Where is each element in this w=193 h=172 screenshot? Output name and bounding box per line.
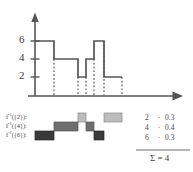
dashed-drop-lines bbox=[54, 41, 122, 95]
y-axis-label-6: 6 bbox=[19, 34, 25, 45]
legend-value-0: 2 bbox=[145, 113, 153, 122]
legend-multiply-icon: · bbox=[153, 113, 165, 122]
legend-multiply-icon: · bbox=[153, 133, 165, 142]
preimage-row-2-bars bbox=[78, 113, 122, 122]
y-axis-label-2: 2 bbox=[19, 70, 25, 81]
legend-value-2: 6 bbox=[145, 133, 153, 142]
preimage-label-4: f-1({4}): bbox=[6, 122, 27, 130]
y-axis-label-4: 4 bbox=[19, 52, 25, 63]
preimage-label-2-tail: ({2}): bbox=[12, 113, 27, 120]
preimage-bar-6-a bbox=[35, 131, 54, 140]
legend-value-1: 4 bbox=[145, 123, 153, 132]
preimage-row-4-bars bbox=[54, 122, 94, 131]
legend-measure-0: 0.3 bbox=[165, 113, 174, 122]
simple-function-figure bbox=[0, 0, 193, 172]
axes-group bbox=[28, 13, 183, 101]
preimage-bar-4-a bbox=[54, 122, 78, 131]
preimage-bar-6-b bbox=[94, 131, 104, 140]
preimage-label-4-tail: ({4}): bbox=[12, 122, 27, 129]
legend-row-1: 4·0.4 bbox=[145, 123, 174, 132]
step-function-curve bbox=[35, 41, 122, 77]
preimage-label-6: f-1({6}): bbox=[6, 131, 27, 139]
x-axis-arrow-icon bbox=[173, 92, 184, 101]
legend-row-2: 6·0.3 bbox=[145, 133, 174, 142]
legend-measure-2: 0.3 bbox=[165, 133, 174, 142]
sum-result-label: Σ = 4 bbox=[150, 153, 169, 163]
legend-measure-1: 0.4 bbox=[165, 123, 174, 132]
preimage-label-6-tail: ({6}): bbox=[12, 131, 27, 138]
y-axis-arrow-icon bbox=[31, 13, 38, 23]
preimage-label-2: f-1({2}): bbox=[6, 113, 27, 121]
preimage-bar-2-a bbox=[78, 113, 86, 122]
preimage-bar-2-b bbox=[104, 113, 122, 122]
preimage-bar-4-b bbox=[86, 122, 94, 131]
legend-row-0: 2·0.3 bbox=[145, 113, 174, 122]
preimage-row-6-bars bbox=[35, 131, 104, 140]
legend-multiply-icon: · bbox=[153, 123, 165, 132]
